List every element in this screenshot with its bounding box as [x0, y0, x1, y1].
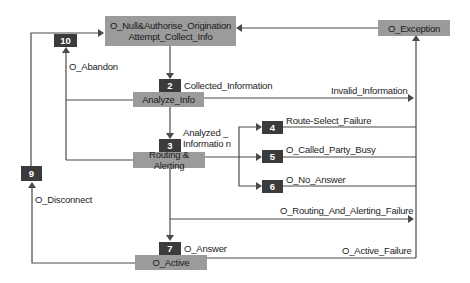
- state-label-line1: O_Null&Authorise_Origination: [110, 20, 231, 31]
- state-o-exception: O_Exception: [378, 20, 450, 36]
- event-o-called-party-busy: O_Called_Party_Busy: [286, 145, 376, 155]
- state-analyze-info: Analyze_Info: [133, 92, 204, 107]
- state-o-null-authorise-origination: O_Null&Authorise_Origination Attempt_Col…: [105, 16, 236, 46]
- state-label: Analyze_Info: [142, 94, 195, 105]
- pic-badge-3: 3: [159, 139, 181, 152]
- event-route-select-failure: Route-Select_Failure: [286, 116, 371, 126]
- pic-badge-10: 10: [54, 34, 77, 47]
- pic-badge-7: 7: [159, 242, 181, 255]
- event-o-no-answer: O_No_Answer: [286, 175, 346, 185]
- state-label: O_Exception: [388, 23, 440, 34]
- event-o-abandon: O_Abandon: [69, 62, 118, 72]
- state-o-active: O_Active: [135, 255, 207, 270]
- pic-badge-2: 2: [159, 79, 181, 92]
- state-label: O_Active: [153, 257, 190, 268]
- pic-badge-4: 4: [262, 121, 283, 134]
- event-analyzed-information-line2: Informatio n: [183, 139, 231, 149]
- pic-badge-5: 5: [262, 150, 283, 163]
- event-o-routing-and-alerting-failure: O_Routing_And_Alerting_Failure: [280, 206, 413, 216]
- event-analyzed-information-line1: Analyzed _: [183, 128, 228, 138]
- event-o-answer: O_Answer: [184, 244, 227, 254]
- event-o-active-failure: O_Active_Failure: [342, 246, 412, 256]
- state-label-line2: Attempt_Collect_Info: [128, 31, 212, 42]
- pic-badge-6: 6: [262, 180, 283, 193]
- event-collected-information: Collected_Information: [184, 81, 272, 91]
- event-invalid-information: Invalid_Information: [331, 86, 407, 96]
- event-o-disconnect: O_Disconnect: [35, 195, 92, 205]
- pic-badge-9: 9: [21, 166, 42, 181]
- state-label: Routing & Alerting: [133, 149, 205, 171]
- state-routing-alerting: Routing & Alerting: [133, 152, 205, 168]
- originating-bcsm-diagram: O_Null&Authorise_Origination Attempt_Col…: [0, 0, 470, 283]
